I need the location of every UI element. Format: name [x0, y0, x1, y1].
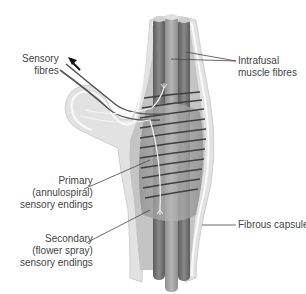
label-primary-endings: Primary (annulospiral) sensory endings: [20, 175, 93, 211]
label-intrafusal-fibres: Intrafusal muscle fibres: [238, 55, 297, 79]
label-fibrous-capsule: Fibrous capsule: [238, 219, 306, 231]
label-sensory-fibres: Sensory fibres: [22, 53, 59, 77]
label-secondary-endings: Secondary (flower spray) sensory endings: [20, 233, 93, 269]
muscle-spindle-diagram: Sensory fibres Intrafusal muscle fibres …: [0, 0, 306, 294]
